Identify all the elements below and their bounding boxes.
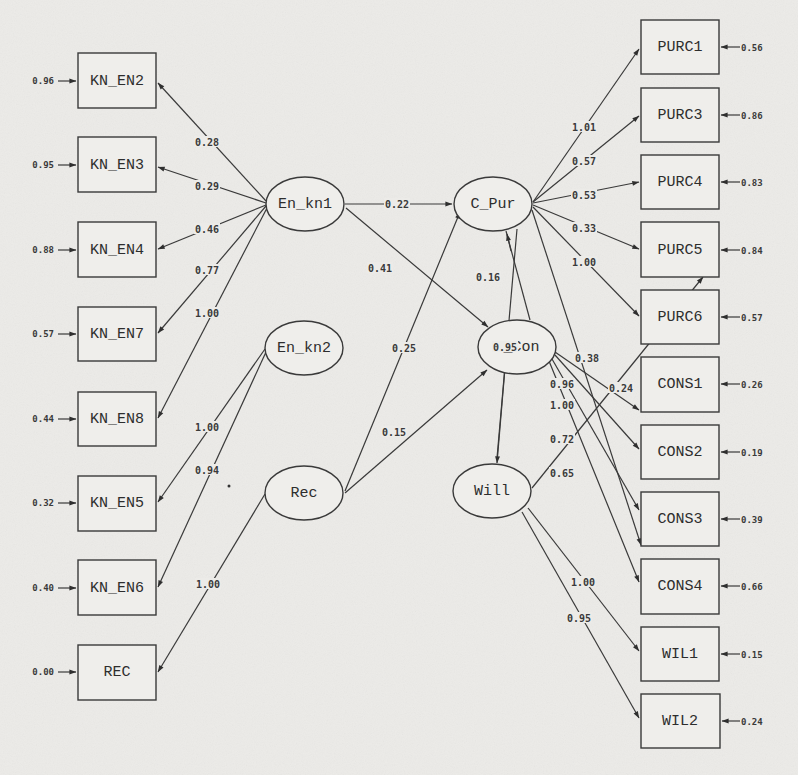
coef-ccon-cons1: 0.96 xyxy=(550,379,574,390)
node-label: WIL1 xyxy=(662,646,698,663)
node-label: KN_EN6 xyxy=(90,580,144,597)
stray-dot xyxy=(228,485,231,488)
coef-cpur-purc1: 1.01 xyxy=(572,122,596,133)
coef-enkn1-knen4: 0.46 xyxy=(195,224,219,235)
error-variance: 0.44 xyxy=(32,414,54,424)
node-label: C_Pur xyxy=(470,196,515,213)
error-variance: 0.84 xyxy=(741,246,763,256)
latent-will[interactable]: Will xyxy=(453,464,531,518)
error-variance: 0.83 xyxy=(741,178,763,188)
node-label: Will xyxy=(474,483,510,500)
node-label: CONS4 xyxy=(657,578,702,595)
coef-enkn1-knen7: 0.77 xyxy=(195,265,219,276)
error-variance: 0.86 xyxy=(741,111,763,121)
coef-rec-cpur: 0.25 xyxy=(392,343,416,354)
coef-cpur-purc5: 0.33 xyxy=(572,223,596,234)
coef-enkn1-ccon: 0.41 xyxy=(368,263,392,274)
node-label: KN_EN7 xyxy=(90,326,144,343)
error-variance: 0.95 xyxy=(32,160,54,170)
node-label: KN_EN3 xyxy=(90,157,144,174)
error-variance: 0.88 xyxy=(32,245,54,255)
node-label: REC xyxy=(103,664,130,681)
coef-ccon-cons2: 1.00 xyxy=(550,400,574,411)
node-label: PURC6 xyxy=(657,309,702,326)
error-variance: 0.40 xyxy=(32,583,54,593)
coef-ccon-cpur: 0.16 xyxy=(476,272,500,283)
node-label: KN_EN8 xyxy=(90,411,144,428)
latent-enkn2[interactable]: En_kn2 xyxy=(265,321,343,375)
node-label: WIL2 xyxy=(662,713,698,730)
error-variance: 0.26 xyxy=(741,380,763,390)
node-label: Rec xyxy=(290,485,317,502)
coef-enkn2-knen5: 1.00 xyxy=(195,422,219,433)
error-variance: 0.39 xyxy=(741,515,763,525)
node-label: En_kn1 xyxy=(278,196,332,213)
node-label: CONS2 xyxy=(657,444,702,461)
error-variance: 0.66 xyxy=(741,582,763,592)
error-variance: 0.32 xyxy=(32,498,54,508)
coef-ccon-cons3: 0.72 xyxy=(550,434,574,445)
node-label: CONS1 xyxy=(657,376,702,393)
node-label: PURC1 xyxy=(657,39,702,56)
coef-ccon-will: 0.95 xyxy=(493,342,517,353)
latent-rec[interactable]: Rec xyxy=(265,466,343,520)
latent-enkn1[interactable]: En_kn1 xyxy=(266,177,344,231)
error-variance: 0.57 xyxy=(741,313,763,323)
coef-rec-ccon: 0.15 xyxy=(382,427,406,438)
error-variance: 0.57 xyxy=(32,329,54,339)
node-label: PURC4 xyxy=(657,174,702,191)
coef-cpur-purc4: 0.53 xyxy=(572,190,596,201)
sem-path-diagram: KN_EN2 0.96 KN_EN3 0.95 KN_EN4 0.88 KN_E… xyxy=(0,0,798,775)
node-label: KN_EN4 xyxy=(90,242,144,259)
coef-will-purc5: 0.24 xyxy=(609,383,633,394)
node-label: KN_EN2 xyxy=(90,73,144,90)
coef-rec-rec: 1.00 xyxy=(196,579,220,590)
node-label: En_kn2 xyxy=(277,340,331,357)
coef-cpur-purc3: 0.57 xyxy=(572,156,596,167)
coef-enkn1-cpur: 0.22 xyxy=(385,199,409,210)
error-variance: 0.56 xyxy=(741,43,763,53)
coef-enkn1-knen8: 1.00 xyxy=(195,308,219,319)
coef-enkn2-knen6: 0.94 xyxy=(195,465,219,476)
diagram-canvas: KN_EN2 0.96 KN_EN3 0.95 KN_EN4 0.88 KN_E… xyxy=(0,0,798,775)
node-label: PURC5 xyxy=(657,242,702,259)
coef-cpur-purc6: 1.00 xyxy=(572,257,596,268)
error-variance: 0.19 xyxy=(741,448,763,458)
error-variance: 0.96 xyxy=(32,76,54,86)
node-label: CONS3 xyxy=(657,511,702,528)
coef-cpur-cons3: 0.38 xyxy=(575,353,599,364)
latent-cpur[interactable]: C_Pur xyxy=(454,177,532,231)
coef-will-wil2: 0.95 xyxy=(567,613,591,624)
coef-enkn1-knen2: 0.28 xyxy=(195,137,219,148)
node-label: KN_EN5 xyxy=(90,495,144,512)
error-variance: 0.24 xyxy=(741,717,763,727)
coef-enkn1-knen3: 0.29 xyxy=(195,181,219,192)
error-variance: 0.15 xyxy=(741,650,763,660)
error-variance: 0.00 xyxy=(32,667,54,677)
coef-ccon-cons4: 0.65 xyxy=(550,468,574,479)
node-label: PURC3 xyxy=(657,107,702,124)
coef-will-wil1: 1.00 xyxy=(571,577,595,588)
